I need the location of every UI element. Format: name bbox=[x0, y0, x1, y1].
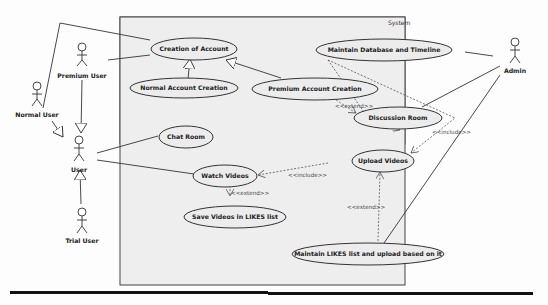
include-label-watch: <<include>> bbox=[288, 172, 327, 178]
actor-normal-user[interactable]: Normal User bbox=[15, 82, 59, 118]
svg-text:Normal User: Normal User bbox=[15, 111, 59, 118]
extend-label-likes: <<extend>> bbox=[347, 204, 385, 210]
svg-text:Chat Room: Chat Room bbox=[167, 133, 205, 140]
svg-text:Upload Videos: Upload Videos bbox=[358, 157, 408, 165]
use-case-creation-of-account[interactable]: Creation of Account bbox=[151, 38, 237, 60]
svg-text:Premium User: Premium User bbox=[57, 72, 107, 79]
svg-text:Trial User: Trial User bbox=[65, 237, 99, 244]
actor-trial-user[interactable]: Trial User bbox=[65, 208, 99, 244]
use-case-maintain-likes[interactable]: Maintain LIKES list and upload based on … bbox=[292, 243, 444, 265]
use-case-maintain-database[interactable]: Maintain Database and Timeline bbox=[316, 39, 452, 61]
use-case-diagram: System <<extend>> <<include>> <<include>… bbox=[0, 0, 548, 305]
extend-label-save: <<extend>> bbox=[231, 190, 269, 196]
extend-label: <<extend>> bbox=[335, 103, 373, 109]
use-case-normal-account-creation[interactable]: Normal Account Creation bbox=[130, 78, 238, 98]
svg-text:Watch Videos: Watch Videos bbox=[201, 172, 249, 179]
use-case-save-videos[interactable]: Save Videos in LIKES list bbox=[184, 206, 286, 228]
stick-figure-icon bbox=[32, 82, 42, 106]
svg-text:Discussion Room: Discussion Room bbox=[368, 114, 427, 121]
svg-text:Admin: Admin bbox=[504, 67, 526, 74]
stick-figure-icon bbox=[77, 43, 87, 66]
svg-text:Save Videos in LIKES list: Save Videos in LIKES list bbox=[192, 213, 278, 220]
actor-premium-user[interactable]: Premium User bbox=[57, 43, 107, 79]
svg-text:Maintain Database and Timeline: Maintain Database and Timeline bbox=[328, 46, 441, 53]
svg-text:Maintain LIKES list and upload: Maintain LIKES list and upload based on … bbox=[294, 250, 442, 258]
use-case-discussion-room[interactable]: Discussion Room bbox=[354, 107, 442, 129]
use-case-premium-account-creation[interactable]: Premium Account Creation bbox=[252, 78, 378, 100]
system-label: System bbox=[388, 19, 411, 27]
stick-figure-icon bbox=[77, 208, 87, 233]
use-case-watch-videos[interactable]: Watch Videos bbox=[193, 165, 257, 187]
svg-text:Normal Account Creation: Normal Account Creation bbox=[140, 84, 227, 91]
include-label: <<include>> bbox=[432, 129, 471, 135]
svg-text:Premium Account Creation: Premium Account Creation bbox=[268, 85, 361, 92]
stick-figure-icon bbox=[74, 136, 84, 161]
use-case-chat-room[interactable]: Chat Room bbox=[159, 126, 213, 148]
svg-text:User: User bbox=[71, 166, 88, 173]
svg-text:Creation of Account: Creation of Account bbox=[159, 45, 228, 52]
actor-user[interactable]: User bbox=[71, 136, 88, 173]
divider-rule bbox=[10, 291, 268, 294]
stick-figure-icon bbox=[510, 38, 520, 63]
use-case-upload-videos[interactable]: Upload Videos bbox=[352, 150, 414, 172]
actor-admin[interactable]: Admin bbox=[504, 38, 526, 74]
divider-rule-right bbox=[268, 292, 533, 295]
